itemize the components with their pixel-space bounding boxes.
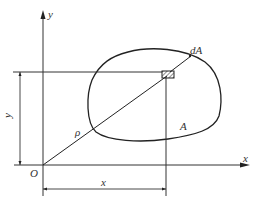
element-label: dA [190,45,202,56]
element-da [162,71,174,78]
diagram-graphics [0,0,255,208]
x-axis-label: x [243,153,248,164]
area-label: A [180,121,187,132]
dim-y-label: y [2,113,13,118]
dim-x-label: x [101,177,106,188]
origin-label: O [30,168,38,179]
da-leader [170,56,191,72]
rho-ray [43,76,167,165]
dim-y-arrow-bottom-icon [19,161,22,165]
y-axis-arrow-icon [41,10,46,19]
y-axis-label: y [48,9,53,20]
region-a-boundary [88,49,221,141]
dim-x-arrow-left-icon [43,188,47,191]
diagram: y x O dA A ρ x y [0,0,255,208]
dim-x-arrow-right-icon [162,188,166,191]
dim-y-arrow-top-icon [19,72,22,76]
radius-label: ρ [75,127,80,138]
